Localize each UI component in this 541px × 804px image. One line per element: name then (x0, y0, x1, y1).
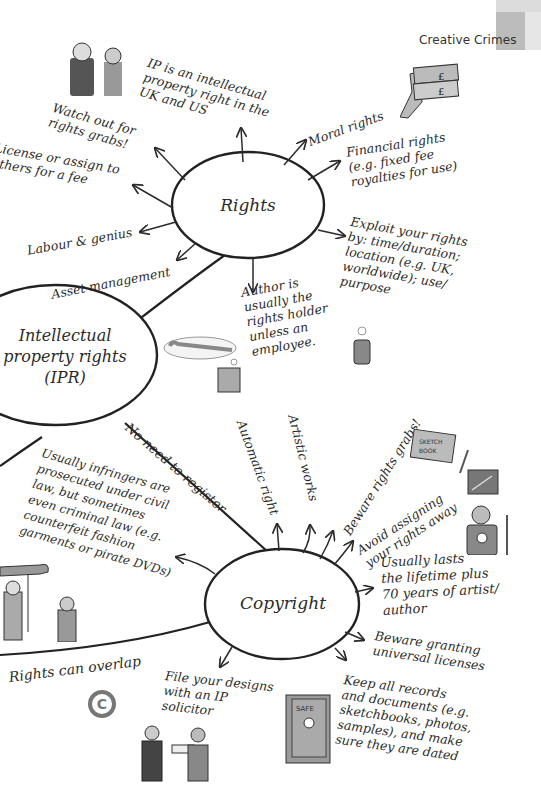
pound-symbol: £ (438, 71, 444, 82)
safe-label: SAFE (296, 705, 314, 713)
lawyer-and-artist-illustration (66, 40, 136, 100)
thought-bubble-brush-illustration (162, 336, 262, 396)
money-hand-illustration: £ £ (400, 62, 462, 120)
safe-illustration: SAFE (284, 693, 332, 765)
sketchbook-label: SKETCH (419, 438, 443, 445)
artist-copyright-shirt-illustration (465, 505, 515, 555)
copyright-symbol-icon: C (88, 690, 116, 718)
copyright-node-label: Copyright (238, 593, 328, 614)
sketchbook-illustration: SKETCH BOOK (410, 428, 500, 500)
svg-text:BOOK: BOOK (419, 447, 437, 454)
rights-node-label: Rights (208, 195, 288, 216)
connector-center-rights (133, 255, 225, 324)
puppeteer-illustration (0, 562, 90, 642)
center-node-label: Intellectual property rights (IPR) (0, 325, 130, 388)
lightbulb-idea-illustration (352, 326, 372, 366)
solicitor-meeting-illustration (136, 725, 216, 785)
connector-center-left (0, 437, 42, 466)
branch-lifetime: Usually lasts the lifetime plus 70 years… (380, 549, 500, 619)
pound-symbol-2: £ (438, 86, 444, 97)
